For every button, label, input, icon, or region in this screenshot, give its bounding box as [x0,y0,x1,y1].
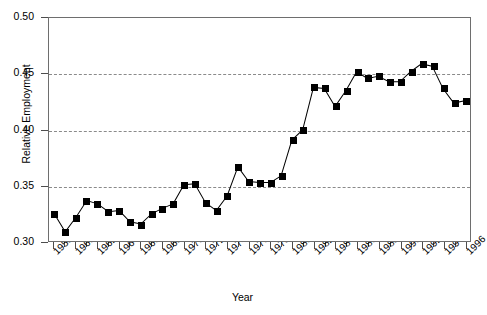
y-axis-tick-label: 0.35 [0,179,34,191]
data-point [51,211,58,218]
data-point [398,79,405,86]
data-point [159,206,166,213]
y-axis-tick-label: 0.50 [0,10,34,22]
data-point [300,127,307,134]
data-point [463,98,470,105]
y-axis-tick [41,242,48,243]
data-point [235,164,242,171]
data-point [268,180,275,187]
data-point [138,222,145,229]
plot-area [48,17,471,242]
data-point [224,193,231,200]
data-point [170,201,177,208]
data-point [365,75,372,82]
data-point [257,180,264,187]
y-axis-tick [41,130,48,131]
data-point [83,198,90,205]
data-point [409,69,416,76]
y-axis-title: Relative Employment [20,34,32,194]
data-point [290,137,297,144]
data-point [441,85,448,92]
data-point [203,200,210,207]
data-point [127,219,134,226]
data-point [431,63,438,70]
y-axis-tick [41,186,48,187]
data-point [333,103,340,110]
data-point [192,181,199,188]
y-axis-tick-label: 0.40 [0,123,34,135]
data-point [149,211,156,218]
x-axis-title: Year [0,291,485,303]
data-markers [49,18,470,241]
y-axis-tick [41,17,48,18]
data-point [355,69,362,76]
data-point [311,84,318,91]
data-point [94,201,101,208]
y-axis-tick-label: 0.45 [0,66,34,78]
data-point [214,208,221,215]
data-point [246,179,253,186]
data-point [181,182,188,189]
data-point [376,73,383,80]
data-point [279,173,286,180]
y-axis-tick-label: 0.30 [0,235,34,247]
y-axis-tick [41,73,48,74]
data-point [105,209,112,216]
data-point [62,229,69,236]
data-point [420,61,427,68]
data-point [322,85,329,92]
data-point [73,215,80,222]
data-point [116,208,123,215]
data-point [387,79,394,86]
data-point [344,88,351,95]
data-point [452,100,459,107]
